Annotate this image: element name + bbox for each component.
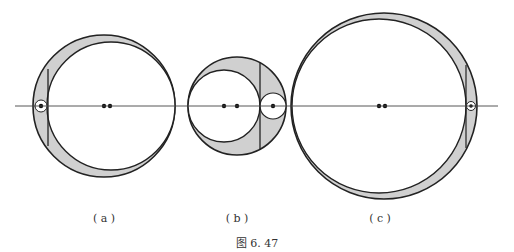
panel-b-label: ( b )	[226, 212, 249, 225]
figure-caption: 图 6. 47	[236, 234, 279, 250]
panel-a-label: ( a )	[93, 212, 115, 225]
figure-diagram	[0, 0, 514, 252]
panel-c-label: ( c )	[369, 212, 391, 225]
